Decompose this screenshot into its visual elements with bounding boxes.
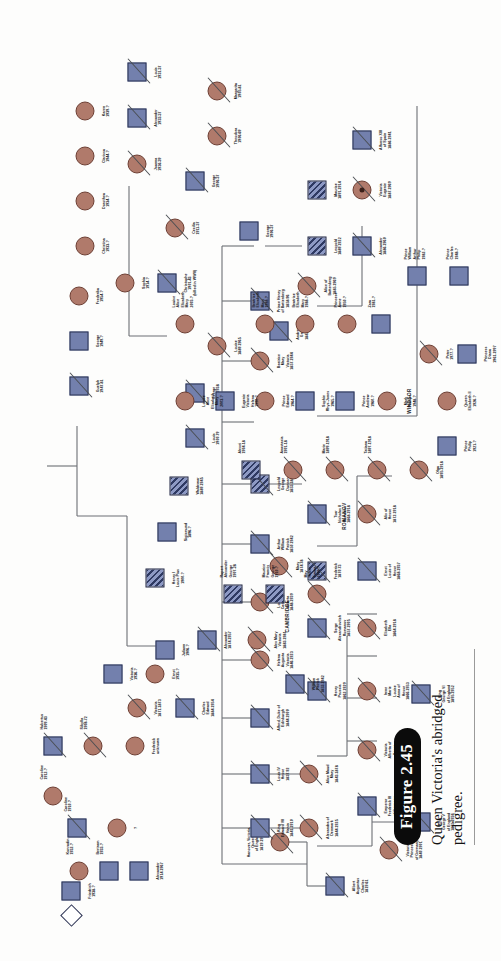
individual-sigismund[interactable]: Sigismund 1896-? [157, 522, 176, 541]
individual-irene-marie[interactable]: Irene Marie Louise Anna of Hesse 1866-19… [357, 681, 376, 700]
individual-anastasia[interactable]: Anastasia 1901-18 [283, 460, 302, 479]
symbol-male [307, 504, 326, 523]
individual-helena-aug[interactable]: Helena Augusta Victoria 1846-1923 [250, 650, 269, 669]
individual-sibylla[interactable]: Sibylla 1908-72 [83, 736, 102, 755]
individual-theodora[interactable]: Theodora 1906-69 [207, 126, 226, 145]
individual-zara[interactable]: Princess Anne 1950-? [337, 314, 356, 333]
individual-alice-maud[interactable]: Alice Maud Mary 1843-1878 [299, 764, 318, 783]
individual-louis-1900[interactable]: Louis 1900-79 [185, 428, 204, 447]
individual-label: ? [133, 805, 137, 851]
individual-ernst-1935[interactable]: Victoria 1936-? [103, 664, 122, 683]
individual-label: Princess Anne 1950-? [333, 257, 346, 307]
symbol-male [335, 391, 354, 410]
symbol-female [250, 351, 269, 370]
individual-frederick-unknown[interactable]: Frederick unknown [125, 736, 144, 755]
individual-alexei[interactable]: Alexei 1904-18 [241, 460, 260, 479]
individual-frederick3[interactable]: Emperor Frederick III of Germany 1831-88 [357, 796, 376, 815]
symbol-male [185, 428, 204, 447]
individual-eugenie[interactable]: Beatrice Elizabeth Mary 1988-? [255, 314, 274, 333]
individual-alfonso13[interactable]: Alfonso XIII of Spain 1886-1941 [352, 130, 371, 149]
individual-beatrice-eliz[interactable]: Beatrice Elizabeth Mary 1988-? [295, 314, 314, 333]
individual-ernst-louis[interactable]: Ernst Louis of Hesse 1868-1937 [357, 561, 376, 580]
individual-victoria-alberta[interactable]: Victoria Alberta of Hesse 1863-1950 [357, 740, 376, 759]
individual-cecilia[interactable]: Cecilia 1911-37 [165, 218, 184, 237]
individual-clarissa[interactable]: Clarissa 1944-? [75, 146, 94, 165]
individual-alfred-edin[interactable]: Alfred, Duke of Edinburgh 1844-1900 [250, 708, 269, 727]
individual-victoria-1871[interactable]: Victoria 1871-1873 [127, 698, 146, 717]
individual-prince-philip[interactable]: Prince Philip 1921-? [437, 436, 456, 455]
individual-alix-hesse[interactable]: Alix of Hesse 1872-1918 [357, 504, 376, 523]
individual-serge-romanov[interactable]: Serge Alexandrovitch Romanov 1857-1905 [307, 618, 326, 637]
individual-caroline-1910[interactable]: ? [107, 818, 126, 837]
individual-may-helen[interactable]: May Helen Emma 1906-? [307, 584, 326, 603]
individual-christina[interactable]: Christina 1933-? [75, 236, 94, 255]
individual-george-1906[interactable]: George 1906-37 [185, 171, 204, 190]
individual-caroline-1933[interactable]: Ernst 1935-? [145, 664, 164, 683]
individual-prince-andrew[interactable]: Sophie Rhys-Jones 1965-? [295, 391, 314, 410]
individual-frederika[interactable]: Frederika 1954-? [69, 286, 88, 305]
individual-tatiana[interactable]: Tatiana 1897-1918 [367, 460, 386, 479]
individual-label: Beatrice Elizabeth Mary 1988-? [251, 257, 269, 307]
individual-karen[interactable]: Karen 1939-? [75, 101, 94, 120]
individual-konradin[interactable]: Bertram 1933-? [99, 861, 118, 880]
individual-alexandra-dk[interactable]: Alexandra of Denmark 1844-1925 [299, 818, 318, 837]
individual-dorothea[interactable]: Dorothea 1934-? [75, 191, 94, 210]
individual-olga[interactable]: Olga 1895-1918 [409, 460, 428, 479]
individual-proband-diamond[interactable] [61, 906, 80, 925]
individual-mark-phillips[interactable]: Prince Andrew 1960-? [335, 391, 354, 410]
individual-waldemar[interactable]: Waldemar 1889-1945 [169, 476, 188, 495]
individual-maurice-batt[interactable]: Maurice 1891-1914 [307, 180, 326, 199]
symbol-female [325, 460, 344, 479]
symbol-female [175, 314, 194, 333]
individual-william-patrick[interactable]: William Patrick 1853-1942 [285, 674, 304, 693]
individual-peter-1977[interactable]: Zara 1981-? [371, 314, 390, 333]
individual-louis-hesse[interactable]: Louis IV Hesse 1837-92 [250, 764, 269, 783]
individual-label: Alfred, Duke of Edinburgh 1844-1900 [276, 695, 289, 741]
individual-beatrice[interactable]: Beatrice Mary Victoria 1857-1944 [250, 351, 269, 370]
individual-joanna[interactable]: Joanna 1936-39 [127, 154, 146, 173]
individual-henry-louis[interactable]: Henry I Louis Pius 1900-? [145, 568, 164, 587]
individual-louis-1931[interactable]: Louis 1931-37 [127, 62, 146, 81]
individual-albert[interactable]: Albert Augustus Charles 1819-61 [325, 876, 344, 895]
individual-leopold-batt[interactable]: Leopold 1889-1922 [307, 236, 326, 255]
individual-george-1935[interactable]: George 1906-37 [239, 221, 258, 240]
individual-caroline-1912[interactable]: Caroline 1912-? [43, 786, 62, 805]
individual-charles-edward[interactable]: Charles Edward 1884-1954 [175, 698, 194, 717]
individual-maurice-francis[interactable]: Maurice Francis George 1910-? [265, 584, 284, 603]
individual-george-1947[interactable]: George 1949-? [69, 331, 88, 350]
individual-alexander-batt[interactable]: Alexander 1886-1960 [352, 236, 371, 255]
individual-edward7[interactable]: King Edward VII Hanin 1841-1910 [250, 818, 269, 837]
individual-louise-1889[interactable]: Louise 1889-1965 [207, 336, 226, 355]
individual-princess-anne[interactable]: Mark Phillips 1948-? [377, 391, 396, 410]
individual-alexander-cambridge[interactable]: Alexander 1874-1957 [197, 630, 216, 649]
symbol-female [207, 81, 226, 100]
symbol-male [157, 522, 176, 541]
individual-rupert-alexander[interactable]: Rupert Alexander George 1907-28 [223, 584, 242, 603]
individual-queen-elizabeth2[interactable]: Queen Elizabeth II 1926-? [437, 391, 456, 410]
individual-victoria-eugenie[interactable]: Victoria Eugenie 1887-1969 [352, 180, 371, 199]
individual-label: William Patrick 1853-1942 [311, 661, 324, 707]
symbol-female [127, 154, 146, 173]
individual-marie[interactable]: Marie 1899-1918 [325, 460, 344, 479]
individual-label: Karen 1939-? [101, 88, 110, 134]
individual-prince-charles[interactable]: Princess Diana 1961-1997 [457, 344, 476, 363]
symbol-male [295, 391, 314, 410]
individual-victoria-1936[interactable]: Konradin 1932-? [69, 861, 88, 880]
individual-friedrich-1938[interactable]: Friedrich 1938-? [61, 881, 80, 900]
individual-nicholas2[interactable]: Tsar Nicholas II Romanov 1868-1918 [307, 504, 326, 523]
individual-sophie-rhys[interactable]: Louise Alice Elizabeth Mary 2003-? [175, 391, 194, 410]
individual-margarita[interactable]: Margarita 1905-81 [207, 81, 226, 100]
individual-elizabeth-ella[interactable]: Elizabeth Ella 1864-1918 [357, 618, 376, 637]
individual-louise-alice[interactable]: Louise Alice Elizabeth Mary 2003-? [175, 314, 194, 333]
individual-label: Alexandra of Denmark 1844-1925 [325, 805, 338, 851]
individual-prince-william[interactable]: Prince Charles 1948-? [449, 266, 468, 285]
individual-sophia[interactable]: Sophia 1914-? [115, 273, 134, 292]
individual-alexander-1933[interactable]: Alexander 1933-37 [127, 108, 146, 127]
individual-prince-henry[interactable]: Prince William Arthur Philip 1982-? [407, 266, 426, 285]
individual-label: Louise 1889-1965 [233, 323, 242, 369]
individual-bertram[interactable]: Alexander 1914-1967 [129, 861, 148, 880]
individual-guelph[interactable]: Guelph 1947-81 [69, 376, 88, 395]
symbol-male [307, 618, 326, 637]
individual-princess-diana[interactable]: Peter 1977-? [419, 344, 438, 363]
individual-alex-mary-vic[interactable]: Alex Mary Victoria 1883-1981 [247, 630, 266, 649]
